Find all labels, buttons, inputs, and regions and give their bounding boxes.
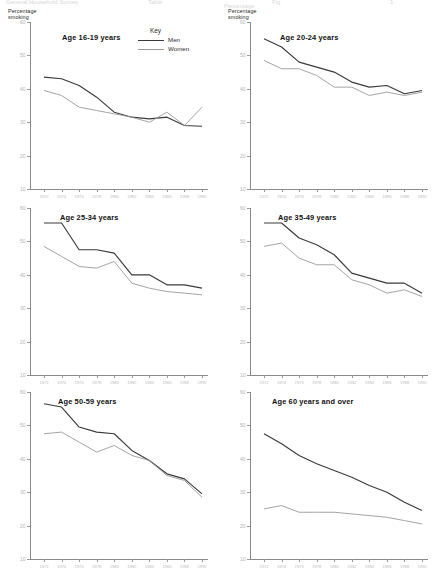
- line-men: [44, 404, 202, 494]
- y-axis-tick-label: 30: [20, 119, 26, 125]
- y-axis-tick-label: 50: [20, 422, 26, 428]
- line-women: [264, 60, 422, 95]
- line-women: [264, 243, 422, 296]
- y-axis-tick-label: 50: [240, 238, 246, 244]
- y-axis-tick-label: 50: [20, 52, 26, 58]
- y-axis-tick-label: 10: [20, 556, 26, 562]
- y-axis-tick-label: 60: [240, 389, 246, 395]
- plot-area: 6050403020101972197419761978198019821984…: [30, 22, 208, 189]
- cut-off-text-fragment: Table: [148, 0, 162, 5]
- y-axis-tick-label: 60: [20, 19, 26, 25]
- plot-area: 6050403020101972197419761978198019821984…: [250, 208, 428, 375]
- y-axis-tick-label: 40: [20, 272, 26, 278]
- data-series-group: [30, 22, 208, 195]
- y-axis-tick-label: 30: [240, 489, 246, 495]
- chart-panel-age-16-19: Percentage smoking Age 16-19 years Key M…: [0, 6, 220, 196]
- y-axis-tick-label: 10: [20, 186, 26, 192]
- y-axis-tick-label: 60: [240, 19, 246, 25]
- y-axis-tick-label: 40: [20, 456, 26, 462]
- y-axis-tick-label: 40: [20, 86, 26, 92]
- y-axis-tick-label: 30: [240, 119, 246, 125]
- y-axis-tick-label: 20: [240, 523, 246, 529]
- line-men: [264, 434, 422, 511]
- chart-panel-age-35-49: Age 35-49 years 605040302010197219741976…: [220, 196, 440, 386]
- line-women: [44, 246, 202, 294]
- data-series-group: [250, 208, 428, 381]
- cut-off-text-fragment: General Household Survey: [6, 0, 78, 5]
- y-axis-tick-label: 40: [240, 86, 246, 92]
- y-axis-tick-label: 20: [240, 153, 246, 159]
- data-series-group: [250, 22, 428, 195]
- line-men: [44, 77, 202, 126]
- chart-panel-age-50-59: Age 50-59 years 605040302010197219741976…: [0, 380, 220, 570]
- line-women: [44, 90, 202, 125]
- y-axis-tick-label: 10: [240, 186, 246, 192]
- y-axis-tick-label: 60: [20, 205, 26, 211]
- y-axis-tick-label: 50: [240, 422, 246, 428]
- y-axis-tick-label: 30: [240, 305, 246, 311]
- y-axis-tick-label: 30: [20, 305, 26, 311]
- line-men: [264, 39, 422, 94]
- chart-panel-age-60-over: Age 60 years and over 605040302010197219…: [220, 380, 440, 570]
- line-men: [44, 223, 202, 288]
- y-axis-tick-label: 60: [20, 389, 26, 395]
- y-axis-tick-label: 20: [20, 339, 26, 345]
- data-series-group: [30, 208, 208, 381]
- line-men: [264, 223, 422, 293]
- y-axis-tick-label: 50: [240, 52, 246, 58]
- plot-area: 6050403020101972197419761978198019821984…: [30, 208, 208, 375]
- y-axis-tick-label: 40: [240, 272, 246, 278]
- chart-panel-age-20-24: Percentage smoking Age 20-24 years 60504…: [220, 6, 440, 196]
- chart-panel-age-25-34: Age 25-34 years 605040302010197219741976…: [0, 196, 220, 386]
- data-series-group: [250, 392, 428, 565]
- plot-area: 6050403020101972197419761978198019821984…: [30, 392, 208, 559]
- y-axis-tick-label: 10: [240, 556, 246, 562]
- line-women: [264, 506, 422, 524]
- y-axis-tick-label: 60: [240, 205, 246, 211]
- plot-area: 6050403020101972197419761978198019821984…: [250, 22, 428, 189]
- data-series-group: [30, 392, 208, 565]
- cut-off-text-fragment: 1: [390, 0, 393, 5]
- plot-area: 6050403020101972197419761978198019821984…: [250, 392, 428, 559]
- cut-off-text-fragment: Fig: [272, 0, 280, 5]
- y-axis-tick-label: 20: [20, 153, 26, 159]
- y-axis-tick-label: 10: [20, 372, 26, 378]
- y-axis-tick-label: 20: [240, 339, 246, 345]
- y-axis-tick-label: 40: [240, 456, 246, 462]
- y-axis-tick-label: 30: [20, 489, 26, 495]
- y-axis-tick-label: 50: [20, 238, 26, 244]
- y-axis-tick-label: 10: [240, 372, 246, 378]
- y-axis-tick-label: 20: [20, 523, 26, 529]
